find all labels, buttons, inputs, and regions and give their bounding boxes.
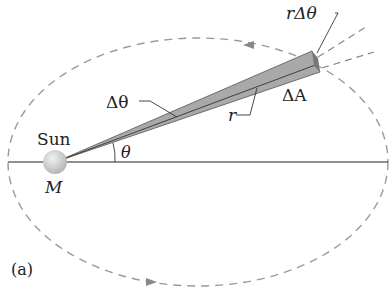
panel-label: (a): [11, 262, 33, 278]
r-delta-theta-label: rΔθ: [286, 5, 317, 22]
extension-line-lower: [322, 52, 374, 68]
extension-line-upper: [318, 27, 366, 57]
delta-theta-label: Δθ: [106, 94, 129, 111]
sun-icon: [43, 150, 67, 174]
orbit-arrow-bottom-icon: [146, 278, 157, 286]
radius-line: [58, 64, 318, 161]
delta-a-label: ΔA: [282, 87, 307, 104]
kepler-diagram: [0, 0, 391, 298]
theta-arc: [113, 143, 115, 162]
r-label: r: [228, 107, 236, 124]
mass-label: M: [45, 179, 62, 196]
sun-label: Sun: [37, 131, 71, 148]
theta-label: θ: [121, 145, 131, 161]
area-wedge: [58, 51, 320, 161]
r-delta-theta-leader: [317, 13, 338, 53]
